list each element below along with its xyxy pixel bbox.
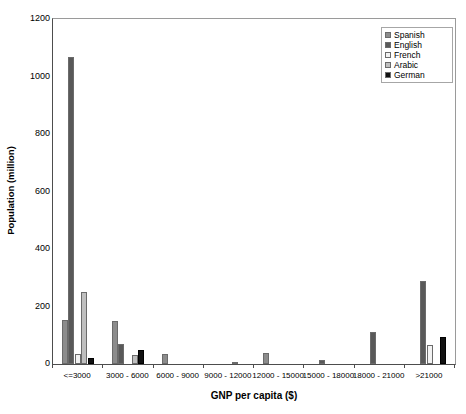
x-axis-tick-mark: [153, 364, 154, 368]
legend-item[interactable]: French: [385, 50, 449, 60]
bar-chart: Population (million) 0200400600800100012…: [0, 0, 466, 414]
legend-item[interactable]: Spanish: [385, 30, 449, 40]
legend-item[interactable]: Arabic: [385, 60, 449, 70]
legend-item-label: Spanish: [394, 30, 425, 40]
legend-swatch-icon: [385, 32, 391, 38]
x-axis-tick-marks: [52, 364, 456, 369]
bar: [81, 292, 87, 364]
bar: [440, 337, 446, 364]
legend-item-label: English: [394, 40, 422, 50]
bar: [162, 354, 168, 364]
bar-group: [62, 19, 95, 364]
x-axis-tick-mark: [102, 364, 103, 368]
x-axis-tick-mark: [303, 364, 304, 368]
bar-group: [112, 19, 145, 364]
legend-swatch-icon: [385, 52, 391, 58]
bar: [75, 354, 81, 364]
x-axis-tick-mark: [354, 364, 355, 368]
bar: [132, 355, 138, 364]
x-axis-tick-mark: [52, 364, 53, 368]
legend-item[interactable]: English: [385, 40, 449, 50]
bar: [420, 281, 426, 364]
bar-group: [212, 19, 245, 364]
legend-item-label: German: [394, 70, 425, 80]
bar: [62, 320, 68, 364]
x-axis-tick-mark: [203, 364, 204, 368]
legend-swatch-icon: [385, 42, 391, 48]
legend-swatch-icon: [385, 62, 391, 68]
legend-item-label: Arabic: [394, 60, 418, 70]
bar: [118, 344, 124, 364]
legend-item[interactable]: German: [385, 70, 449, 80]
x-axis-tick-mark: [253, 364, 254, 368]
x-axis-tick-mark: [454, 364, 455, 368]
bar-group: [313, 19, 346, 364]
bar: [427, 345, 433, 364]
x-axis-tick-label: >21000: [389, 370, 466, 382]
x-axis-tick-labels: <=30003000 - 60006000 - 90009000 - 12000…: [52, 370, 456, 382]
x-axis-tick-mark: [404, 364, 405, 368]
legend-item-label: French: [394, 50, 420, 60]
y-axis-tick-marks: [0, 18, 60, 363]
bar-group: [263, 19, 296, 364]
bar: [68, 57, 74, 364]
bar: [112, 321, 118, 364]
bar: [263, 353, 269, 365]
bar: [138, 350, 144, 364]
legend-swatch-icon: [385, 72, 391, 78]
bar-group: [162, 19, 195, 364]
legend: SpanishEnglishFrenchArabicGerman: [381, 27, 453, 83]
x-axis-title: GNP per capita ($): [52, 389, 456, 403]
bar: [370, 332, 376, 364]
